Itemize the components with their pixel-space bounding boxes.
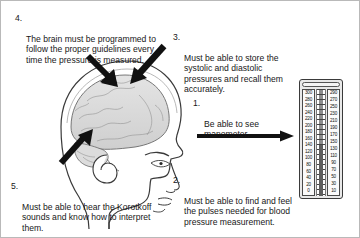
scale-tick-left: 220 <box>305 117 312 122</box>
manometer-scale-left: 300 280 260 240 220 200 180 160 140 120 … <box>302 89 315 196</box>
callout-2: 2. Must be able to find and feel the pul… <box>173 175 303 237</box>
scale-tick-right: 170 <box>330 133 337 138</box>
scale-tick-right: 50 <box>331 175 336 180</box>
scale-tick-left: 120 <box>305 150 312 155</box>
scale-tick-left: 260 <box>305 104 312 109</box>
scale-tick-left: 160 <box>305 137 312 142</box>
scale-tick-left: 20 <box>306 183 311 188</box>
callout-2-number: 2. <box>173 175 180 185</box>
scale-tick-right: 150 <box>330 140 337 145</box>
scale-tick-right: 110 <box>330 154 337 159</box>
callout-3-text: Must be able to store the systolic and d… <box>173 53 301 95</box>
scale-tick-left: 300 <box>305 91 312 96</box>
scale-tick-right: 190 <box>330 126 337 131</box>
callout-4-text: The brain must be programmed to follow t… <box>15 34 165 65</box>
scale-tick-left: 280 <box>305 98 312 103</box>
scale-tick-left: 200 <box>305 124 312 129</box>
callout-4: 4. The brain must be programmed to follo… <box>15 13 165 75</box>
scale-tick-left: 180 <box>305 130 312 135</box>
callout-1-text: Be able to see manometer. <box>193 119 303 140</box>
scale-tick-left: 40 <box>306 176 311 181</box>
scale-tick-left: 140 <box>305 143 312 148</box>
scale-tick-right: 230 <box>330 112 337 117</box>
scale-tick-left: 60 <box>306 170 311 175</box>
callout-2-text: Must be able to find and feel the pulses… <box>173 196 303 227</box>
callout-3-number: 3. <box>173 32 180 42</box>
manometer-cap <box>302 82 340 87</box>
scale-tick-left: 0 <box>307 189 309 194</box>
scale-tick-right: 290 <box>330 91 337 96</box>
scale-tick-right: 70 <box>331 168 336 173</box>
arrow-to-ear-icon <box>59 127 95 165</box>
callout-5: 5. Must be able to hear the Korotkoff so… <box>11 181 161 238</box>
callout-1: 1. Be able to see manometer. <box>193 98 303 150</box>
scale-tick-right: 250 <box>330 105 337 110</box>
callout-4-number: 4. <box>15 13 22 23</box>
callout-3: 3. Must be able to store the systolic an… <box>173 32 301 105</box>
callout-1-number: 1. <box>193 98 200 108</box>
scale-tick-left: 100 <box>305 156 312 161</box>
scale-tick-right: 270 <box>330 98 337 103</box>
manometer-mercury-column <box>319 145 322 196</box>
manometer-scale-right: 290 270 250 230 210 190 170 150 130 110 … <box>327 89 340 196</box>
scale-tick-right: 90 <box>331 161 336 166</box>
manometer-body: 300 280 260 240 220 200 180 160 140 120 … <box>302 89 340 196</box>
manometer-tube <box>316 89 326 196</box>
scale-tick-right: 30 <box>331 182 336 187</box>
callout-5-number: 5. <box>11 181 18 191</box>
mercury-manometer: 300 280 260 240 220 200 180 160 140 120 … <box>299 79 343 199</box>
scale-tick-right: 10 <box>331 189 336 194</box>
scale-tick-left: 240 <box>305 111 312 116</box>
diagram-canvas: 300 280 260 240 220 200 180 160 140 120 … <box>0 0 360 238</box>
scale-tick-right: 130 <box>330 147 337 152</box>
scale-tick-left: 80 <box>306 163 311 168</box>
scale-tick-right: 210 <box>330 119 337 124</box>
callout-5-text: Must be able to hear the Korotkoff sound… <box>11 202 161 233</box>
